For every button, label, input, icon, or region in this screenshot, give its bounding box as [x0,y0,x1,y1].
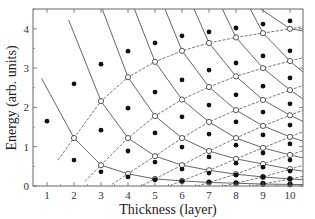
filled-dot-marker [288,142,293,147]
open-circle-marker [287,58,292,63]
filled-dot-marker [180,145,185,150]
y-tick-label: 2 [24,101,30,113]
filled-dot-marker [207,103,212,108]
filled-dot-marker [261,22,266,27]
filled-dot-marker [261,84,266,89]
y-axis-title: Energy (arb. units) [4,45,20,150]
open-circle-marker [152,154,157,159]
y-tick-label: 1 [24,141,30,153]
open-circle-marker [233,135,238,140]
open-circle-marker [98,163,103,168]
filled-dot-marker [153,90,158,95]
filled-dot-marker [99,128,104,133]
filled-dot-marker [288,123,293,128]
filled-dot-markers [45,19,293,187]
filled-dot-marker [234,143,239,148]
filled-dot-marker [261,175,266,180]
filled-dot-marker [153,131,158,136]
x-tick-label: 3 [98,189,104,201]
open-circle-marker [206,119,211,124]
open-circle-marker [287,88,292,93]
open-circle-marker [233,156,238,161]
filled-dot-marker [288,101,293,106]
filled-dot-marker [126,106,131,111]
filled-dot-marker [234,92,239,97]
open-circle-marker [233,35,238,40]
open-circle-marker [152,59,157,64]
filled-dot-marker [288,158,293,163]
open-circle-marker [206,40,211,45]
filled-dot-marker [207,68,212,73]
x-tick-label: 5 [152,189,158,201]
filled-dot-marker [45,119,50,124]
x-axis-title: Thickness (layer) [119,202,217,218]
filled-dot-marker [180,77,185,82]
open-circle-marker [179,135,184,140]
solid-branch-curve [231,0,307,75]
open-circle-marker [287,26,292,31]
solid-branch-curve [123,0,307,158]
open-circle-marker [206,148,211,153]
open-circle-marker [179,48,184,53]
solid-curves [42,0,307,185]
solid-branch-curve [96,0,307,172]
filled-dot-marker [99,62,104,67]
filled-dot-marker [207,171,212,176]
open-circle-marker [98,99,103,104]
filled-dot-marker [234,161,239,166]
open-circle-marker [125,135,130,140]
filled-dot-marker [153,41,158,46]
x-tick-label: 10 [285,189,297,201]
y-tick-label: 4 [24,23,30,35]
open-circle-marker [260,31,265,36]
open-circle-marker [233,74,238,79]
filled-dot-marker [234,61,239,66]
open-circle-marker [287,134,292,139]
y-tick-label: 0 [24,180,30,192]
open-circle-marker [71,135,76,140]
filled-dot-marker [261,110,266,115]
open-circle-marker [179,97,184,102]
dashed-branch-curve [139,109,306,187]
x-tick-label: 9 [260,189,266,201]
filled-dot-marker [72,81,77,86]
x-tick-label: 1 [44,189,50,201]
filled-dot-marker [288,19,293,24]
x-tick-label: 7 [206,189,212,201]
filled-dot-marker [207,30,212,35]
open-circle-marker [125,75,130,80]
filled-dot-marker [234,120,239,125]
filled-dot-marker [207,132,212,137]
solid-branch-curve [69,20,307,180]
y-tick-label: 3 [24,62,30,74]
open-circle-marker [260,123,265,128]
open-circle-marker [287,152,292,157]
filled-dot-marker [72,158,77,163]
filled-dot-marker [234,26,239,31]
filled-dot-marker [234,173,239,178]
x-tick-label: 4 [125,189,131,201]
filled-dot-marker [288,169,293,174]
filled-dot-marker [180,114,185,119]
filled-dot-marker [261,133,266,138]
filled-dot-marker [153,177,158,182]
open-circle-marker [152,113,157,118]
filled-dot-marker [261,165,266,170]
filled-dot-marker [288,76,293,81]
filled-dot-marker [153,160,158,165]
x-tick-label: 8 [233,189,239,201]
chart: 12345678910 01234 Thickness (layer) Ener… [0,0,315,219]
open-circle-marker [260,97,265,102]
filled-dot-marker [207,155,212,160]
open-circle-marker [287,113,292,118]
filled-dot-marker [126,149,131,154]
filled-dot-marker [180,167,185,172]
open-circle-marker [260,66,265,71]
x-tick-label: 6 [179,189,185,201]
filled-dot-marker [261,151,266,156]
x-axis-ticks: 12345678910 [44,9,296,201]
open-circle-marker [233,108,238,113]
x-tick-label: 2 [71,189,77,201]
open-circle-marker [206,84,211,89]
filled-dot-marker [288,48,293,53]
